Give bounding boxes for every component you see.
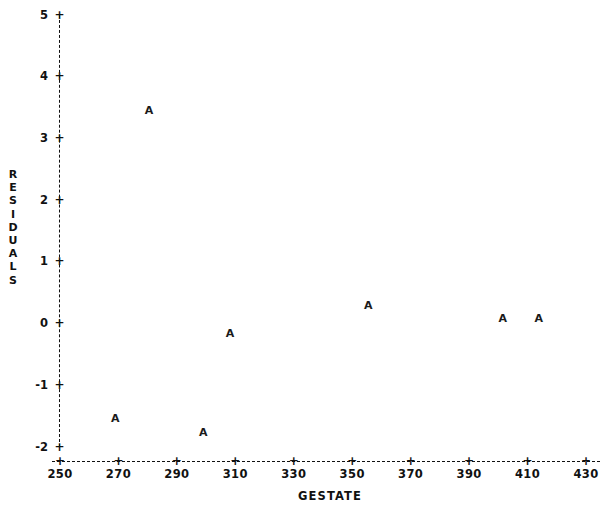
x-tick-label: 430 <box>566 467 606 481</box>
y-axis-title-letter: D <box>6 221 20 234</box>
data-point-marker: A <box>496 312 510 326</box>
y-tick-mark: + <box>53 317 66 330</box>
y-axis-title-letter: L <box>6 260 20 273</box>
y-axis-title-letter: E <box>6 181 20 194</box>
y-tick-mark: + <box>53 132 66 145</box>
data-point-marker: A <box>142 104 156 118</box>
y-axis-title-letter: U <box>6 234 20 247</box>
y-tick-mark: + <box>53 255 66 268</box>
x-tick-label: 370 <box>391 467 431 481</box>
y-axis-title-letter: S <box>6 194 20 207</box>
x-tick-label: 410 <box>508 467 548 481</box>
x-tick-label: 330 <box>274 467 314 481</box>
y-tick-label: 1 <box>16 255 48 268</box>
y-tick-label: 0 <box>16 317 48 330</box>
x-tick-label: 290 <box>157 467 197 481</box>
data-point-marker: A <box>108 412 122 426</box>
y-axis-title-letter: S <box>6 274 20 287</box>
y-tick-mark: + <box>53 9 66 22</box>
y-tick-label: 3 <box>16 132 48 145</box>
x-tick-label: 270 <box>98 467 138 481</box>
y-tick-label: 5 <box>16 9 48 22</box>
x-tick-label: 390 <box>449 467 489 481</box>
data-point-marker: A <box>532 312 546 326</box>
y-tick-label: 4 <box>16 70 48 83</box>
y-tick-label: -2 <box>16 441 48 454</box>
y-tick-mark: + <box>53 194 66 207</box>
y-tick-mark: + <box>53 379 66 392</box>
data-point-marker: A <box>196 426 210 440</box>
y-axis-title: RESIDUALS <box>6 168 20 287</box>
x-tick-label: 250 <box>40 467 80 481</box>
x-axis-line <box>52 461 600 462</box>
x-axis-title: GESTATE <box>0 489 614 503</box>
data-point-marker: A <box>223 327 237 341</box>
x-tick-label: 350 <box>332 467 372 481</box>
y-axis-title-letter: A <box>6 247 20 260</box>
y-axis-title-letter: R <box>6 168 20 181</box>
y-tick-label: -1 <box>16 379 48 392</box>
y-tick-mark: + <box>53 441 66 454</box>
y-tick-label: 2 <box>16 194 48 207</box>
x-tick-label: 310 <box>215 467 255 481</box>
data-point-marker: A <box>361 299 375 313</box>
y-axis-title-letter: I <box>6 208 20 221</box>
y-tick-mark: + <box>53 70 66 83</box>
scatter-plot-figure: +-2+-1+0+1+2+3+4+5 +250+270+290+310+330+… <box>0 0 614 518</box>
